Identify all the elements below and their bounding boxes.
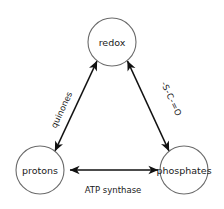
diagram-container: quinones -S-C-=O ATP synthase redox prot…: [0, 0, 224, 209]
diagram-canvas: quinones -S-C-=O ATP synthase redox prot…: [0, 0, 224, 209]
node-protons-label: protons: [22, 165, 58, 176]
node-redox-label: redox: [99, 37, 126, 48]
node-phosphates-label: phosphates: [156, 165, 211, 176]
edge-protons-redox: quinones: [49, 61, 97, 151]
edge-label-thioester: -S-C-=O: [159, 80, 184, 118]
edge-protons-phosphates: ATP synthase: [70, 170, 158, 195]
edge-redox-phosphates-line: [128, 61, 170, 151]
node-redox[interactable]: redox: [88, 18, 136, 66]
node-protons[interactable]: protons: [16, 146, 64, 194]
edge-label-atp-synthase: ATP synthase: [85, 185, 142, 195]
node-phosphates[interactable]: phosphates: [156, 146, 211, 194]
edge-redox-phosphates: -S-C-=O: [128, 61, 184, 151]
edge-label-quinones: quinones: [49, 90, 75, 130]
